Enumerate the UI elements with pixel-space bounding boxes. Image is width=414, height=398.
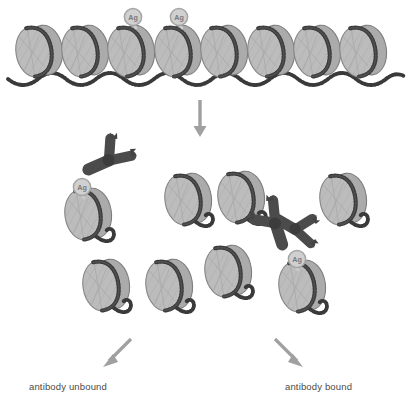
nucleosome: [316, 171, 370, 228]
antibody-nucleosome-complex-left: Ag: [61, 128, 140, 242]
antigen-tag-label: Ag: [77, 183, 87, 192]
nucleosome: [290, 23, 344, 80]
caption-antibody-unbound: antibody unbound: [29, 381, 107, 392]
nucleosome: [161, 171, 215, 228]
antibody: [82, 128, 140, 187]
fragmented-chromatin-row: Ag: [61, 128, 370, 248]
antigen-tag-label: Ag: [128, 13, 138, 22]
nucleosome: [142, 257, 196, 314]
antigen-tag: Ag: [124, 8, 141, 28]
nucleosome: [336, 23, 390, 80]
figure-canvas: Ag Ag: [0, 0, 414, 398]
antigen-tag-label: Ag: [292, 255, 302, 264]
nucleosome: [244, 23, 298, 80]
arrow-down-left: [103, 339, 131, 367]
antigen-tag-label: Ag: [174, 13, 184, 22]
diagram-scene: Ag Ag: [0, 0, 414, 398]
nucleosome: [201, 243, 255, 300]
linker-dna-strand: [8, 73, 404, 85]
nucleosome: [197, 23, 251, 80]
arrow-down-right: [275, 339, 303, 367]
nucleosome: [79, 257, 133, 314]
nucleosome: [104, 23, 158, 80]
nucleosome: [12, 23, 66, 80]
chromatin-fiber-row: Ag Ag: [8, 8, 404, 85]
nucleosome: [151, 23, 205, 80]
nucleosome: [61, 186, 115, 243]
arrow-down-main: [194, 100, 207, 137]
caption-antibody-bound: antibody bound: [285, 381, 352, 392]
nucleosome: [58, 23, 112, 80]
